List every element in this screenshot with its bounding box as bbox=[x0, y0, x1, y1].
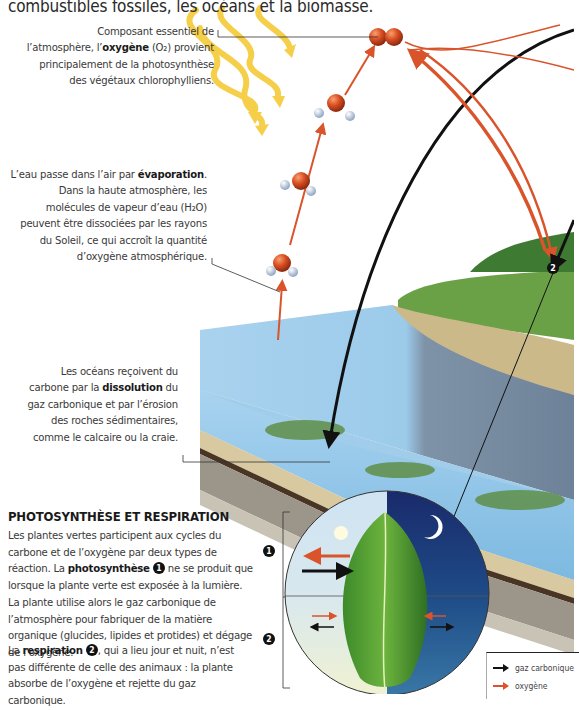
caption-oceans: Les océans reçoivent du carbone par la d… bbox=[10, 364, 178, 446]
section-paragraph-1: Les plantes vertes participent aux cycle… bbox=[8, 528, 254, 662]
sun-icon bbox=[334, 526, 348, 540]
term-oxygene: oxygène bbox=[102, 41, 149, 54]
number-badge-1: 1 bbox=[153, 562, 165, 574]
term-respiration: respiration bbox=[22, 644, 82, 657]
section-title: PHOTOSYNTHÈSE ET RESPIRATION bbox=[8, 509, 229, 524]
section-paragraph-2: La respiration 2, qui a lieu jour et nui… bbox=[8, 643, 254, 710]
water-molecule-icon bbox=[314, 94, 355, 121]
caption-oxygen: Composant essentiel de l’atmosphère, l’o… bbox=[10, 24, 214, 90]
diagram-marker-2: 2 bbox=[263, 633, 275, 645]
caption-evaporation: L’eau passe dans l’air par évaporation. … bbox=[6, 167, 207, 265]
legend: gaz carbonique oxygène bbox=[486, 652, 579, 699]
term-evaporation: évaporation bbox=[138, 168, 204, 181]
legend-item-co2: gaz carbonique bbox=[493, 663, 574, 673]
term-photosynthese: photosynthèse bbox=[68, 562, 150, 575]
number-badge-2: 2 bbox=[86, 644, 98, 656]
diagram-marker-1: 1 bbox=[263, 545, 275, 557]
legend-item-oxygen: oxygène bbox=[493, 681, 548, 691]
red-arrow-icon bbox=[493, 682, 509, 690]
svg-text:2: 2 bbox=[550, 264, 556, 273]
black-arrow-icon bbox=[493, 664, 509, 672]
land-marker-2: 2 bbox=[547, 262, 559, 274]
intro-text-line: combustibles fossiles, les océans et la … bbox=[8, 0, 373, 16]
term-dissolution: dissolution bbox=[102, 381, 162, 394]
